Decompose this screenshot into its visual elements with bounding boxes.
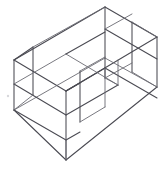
right-compartment-diag-upper	[132, 22, 157, 37]
mid-shelf-edge-front-right	[66, 85, 118, 115]
outer-bottom-edge-hidden-back-left	[14, 58, 105, 110]
outer-top-face-edge-front-left	[14, 60, 66, 91]
left-compartment-top-strut-left	[14, 47, 33, 60]
figure-root: Isometric wireframe line drawing	[0, 0, 165, 169]
shelf-to-divider-top-edge	[66, 32, 105, 54]
right-compartment-top-left-strut	[105, 29, 157, 59]
lower-well-edge-right	[66, 132, 80, 140]
left-compartment-shelf-riser-front	[66, 83, 80, 91]
paper-speck	[7, 95, 9, 97]
left-compartment-top-strut-right	[33, 7, 105, 47]
left-compartment-bottom-strut-left	[14, 95, 33, 110]
mid-shelf-edge-back-left	[14, 54, 66, 84]
outer-shell-group	[14, 7, 157, 160]
shelf-right-to-divider	[105, 78, 118, 85]
right-compartment-diag-lower	[132, 72, 157, 87]
isometric-wireframe-drawing: Isometric wireframe line drawing	[0, 0, 165, 169]
mid-shelf-edge-left-front	[14, 84, 66, 115]
right-compartment-back-top-edge	[105, 14, 132, 29]
left-compartment-riser-back	[80, 57, 105, 71]
left-compartment-riser-back-lower	[80, 107, 105, 122]
